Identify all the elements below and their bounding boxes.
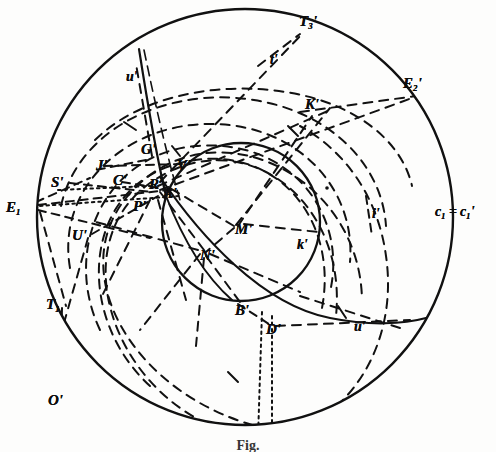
dashed-line-U-down xyxy=(62,238,88,330)
label-k-prime: k' xyxy=(297,238,308,252)
label-B-prime: B' xyxy=(235,303,249,318)
label-M-prime: M' xyxy=(235,222,252,237)
dashed-line-cluster-down xyxy=(158,200,186,300)
label-J-prime: J' xyxy=(96,158,107,173)
label-P-prime: P' xyxy=(133,199,146,214)
dot-mark-lower-left xyxy=(72,346,75,349)
tick-mark-lower-center xyxy=(228,372,238,382)
dashed-line-O-to-right xyxy=(70,400,180,432)
dashed-line-lower-right-fan xyxy=(300,296,400,328)
tick-mark-center-upper xyxy=(288,126,298,136)
dashed-line-N-down xyxy=(196,258,204,346)
tick-mark-upper-left xyxy=(124,122,136,130)
label-u-prime-top: u' xyxy=(126,70,137,84)
label-U-prime: U' xyxy=(72,228,87,243)
label-c1-equals-c1-prime: c₁ = c₁' xyxy=(435,205,474,219)
figure-caption: Fig. xyxy=(0,438,496,452)
dashed-arc-8-right xyxy=(282,126,388,438)
label-u-prime-bottom: u' xyxy=(354,320,365,334)
label-N-prime: N' xyxy=(200,248,215,263)
outer-circle-c1 xyxy=(37,9,453,425)
dashed-line-M-to-right xyxy=(244,224,318,232)
figure-plate: T₃' t' E₂' K' u' G' J' S' C' V' R' A' P'… xyxy=(0,0,496,452)
dashed-line-E1-to-T1 xyxy=(40,212,66,306)
tick-mark-u-solid xyxy=(338,306,346,318)
label-S-prime: S' xyxy=(51,175,63,190)
label-R-prime: R' xyxy=(149,177,163,192)
dashed-line-T1-to-O xyxy=(60,308,62,390)
label-G-prime: G' xyxy=(141,142,156,157)
dashed-arc-2 xyxy=(61,97,386,226)
tick-mark-G xyxy=(172,146,180,156)
dashed-line-N-to-lower-right xyxy=(210,254,300,292)
label-E2-prime: E₂' xyxy=(403,76,422,91)
label-V-prime: V' xyxy=(177,158,191,173)
label-t-prime: t' xyxy=(270,53,277,67)
dotted-line-D-down xyxy=(258,312,262,438)
label-D-prime: D' xyxy=(266,322,281,337)
dashed-line-N-to-lower-left xyxy=(140,254,200,330)
dot-mark-right xyxy=(325,186,329,190)
label-T3-prime: T₃' xyxy=(299,14,317,29)
dashed-arc-5 xyxy=(99,159,325,386)
label-i-prime: i' xyxy=(372,207,379,221)
label-A-prime: A' xyxy=(163,186,177,201)
label-K-prime: K' xyxy=(305,97,319,112)
label-C-prime: C' xyxy=(113,173,127,188)
label-O-prime: O' xyxy=(48,393,63,408)
label-T1: T₁ xyxy=(46,297,60,312)
dashed-line-t-prime xyxy=(258,34,300,66)
label-E1: E₁ xyxy=(6,200,21,215)
dashed-arc-7 xyxy=(103,152,362,434)
